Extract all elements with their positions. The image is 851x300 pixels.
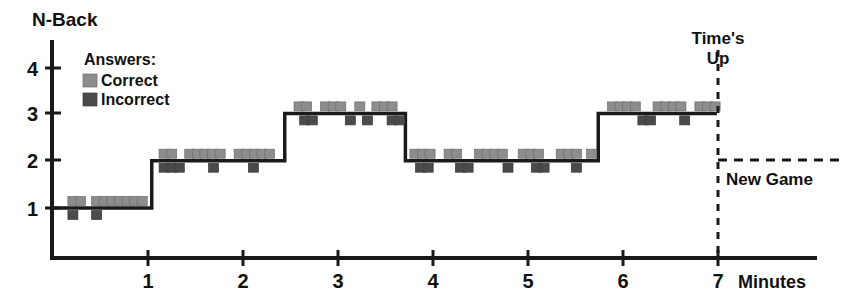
new-game-label: New Game xyxy=(726,170,813,189)
marker-incorrect xyxy=(209,163,219,172)
marker-correct xyxy=(215,149,225,158)
marker-incorrect xyxy=(503,163,513,172)
marker-correct xyxy=(452,149,462,158)
marker-incorrect xyxy=(646,116,656,125)
y-tick-label-3: 3 xyxy=(27,103,38,125)
y-tick-label-2: 2 xyxy=(27,150,38,172)
x-tick-label-1: 1 xyxy=(142,270,153,292)
marker-incorrect xyxy=(362,116,372,125)
marker-incorrect xyxy=(571,163,581,172)
times-up-annotation: Time's Up xyxy=(692,29,745,258)
x-tick-labels: 1 2 3 4 5 6 7 xyxy=(142,270,723,292)
marker-incorrect xyxy=(423,163,433,172)
marker-correct xyxy=(167,149,177,158)
y-tick-label-4: 4 xyxy=(27,58,39,80)
marker-correct xyxy=(533,149,543,158)
marker-incorrect xyxy=(345,116,355,125)
x-tick-label-3: 3 xyxy=(332,270,343,292)
marker-correct xyxy=(76,197,86,206)
marker-correct xyxy=(497,149,507,158)
marker-correct xyxy=(336,102,346,111)
marker-incorrect xyxy=(463,163,473,172)
times-up-label-line2: Up xyxy=(707,49,730,68)
legend-label-incorrect: Incorrect xyxy=(101,91,170,108)
n-back-step-line xyxy=(52,113,717,208)
y-axis-title: N-Back xyxy=(32,9,98,30)
legend-swatch-correct xyxy=(83,74,97,87)
incorrect-answer-markers xyxy=(68,116,690,220)
y-tick-labels: 4 3 2 1 xyxy=(27,58,39,220)
marker-correct xyxy=(587,149,597,158)
marker-incorrect xyxy=(68,211,78,220)
marker-incorrect xyxy=(680,116,690,125)
x-tick-label-2: 2 xyxy=(237,270,248,292)
x-tick-label-6: 6 xyxy=(617,270,628,292)
x-tick-label-4: 4 xyxy=(427,270,439,292)
marker-incorrect xyxy=(539,163,549,172)
legend: Answers: Correct Incorrect xyxy=(83,51,170,108)
legend-swatch-incorrect xyxy=(83,93,97,106)
marker-correct xyxy=(571,149,581,158)
x-axis-unit-label: Minutes xyxy=(738,272,806,292)
n-back-performance-chart: 4 3 2 1 N-Back 1 2 3 4 5 6 7 Minutes Tim… xyxy=(0,0,851,300)
marker-incorrect xyxy=(395,116,405,125)
marker-correct xyxy=(302,102,312,111)
marker-incorrect xyxy=(248,163,258,172)
legend-title: Answers: xyxy=(84,51,156,68)
times-up-label-line1: Time's xyxy=(692,29,745,48)
marker-incorrect xyxy=(174,163,184,172)
marker-correct xyxy=(630,102,640,111)
new-game-annotation: New Game xyxy=(718,160,845,189)
marker-correct xyxy=(265,149,275,158)
marker-correct xyxy=(355,102,365,111)
x-tick-label-7: 7 xyxy=(712,270,723,292)
marker-correct xyxy=(387,102,397,111)
marker-correct xyxy=(425,149,435,158)
marker-incorrect xyxy=(307,116,317,125)
legend-label-correct: Correct xyxy=(101,72,159,89)
x-tick-label-5: 5 xyxy=(522,270,533,292)
marker-correct xyxy=(137,197,147,206)
marker-correct xyxy=(676,102,686,111)
marker-incorrect xyxy=(92,211,102,220)
y-tick-label-1: 1 xyxy=(27,198,38,220)
